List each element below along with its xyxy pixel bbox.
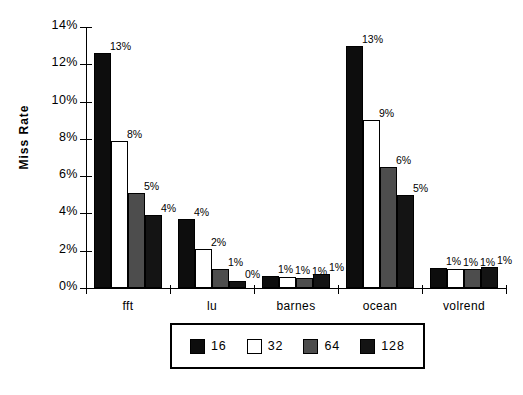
bar — [111, 141, 128, 288]
bar — [145, 215, 162, 288]
bar — [481, 267, 498, 288]
bar-value-label: 1% — [278, 263, 293, 275]
bar-value-label: 4% — [194, 206, 209, 218]
bar — [195, 249, 212, 288]
x-axis-category-label: fft — [86, 299, 170, 313]
bar — [313, 274, 330, 288]
y-axis-tick-label: 2% — [59, 242, 78, 256]
bar-value-label: 1% — [295, 264, 310, 276]
bar-value-label: 1% — [446, 255, 461, 267]
bar — [128, 193, 145, 288]
legend-swatch — [190, 339, 205, 354]
bar-value-label: 1% — [463, 256, 478, 268]
y-axis-tick-label: 6% — [59, 167, 78, 181]
y-axis-tick-label: 12% — [51, 55, 78, 69]
bar — [94, 53, 111, 288]
bar — [296, 278, 313, 288]
bar-group: 1%1%1%1% — [254, 27, 338, 288]
bar — [397, 195, 414, 288]
bar-value-label: 1% — [228, 256, 243, 268]
x-axis-category-label: volrend — [422, 299, 506, 313]
y-axis-tick-label: 8% — [59, 130, 78, 144]
bar-value-label: 6% — [396, 154, 411, 166]
legend-swatch — [247, 339, 262, 354]
bar — [380, 167, 397, 288]
plot-area: 0%2%4%6%8%10%12%14% 13%8%5%4%4%2%1%0%1%1… — [86, 27, 506, 288]
legend-items: 163264128 — [172, 325, 423, 367]
bar-group: 13%8%5%4% — [86, 27, 170, 288]
legend-label: 128 — [381, 339, 405, 353]
bar — [346, 46, 363, 288]
chart-legend: 163264128 — [170, 323, 425, 369]
legend-label: 32 — [268, 339, 284, 353]
bar — [229, 281, 246, 288]
legend-item: 16 — [190, 339, 227, 354]
x-axis-line — [86, 288, 506, 289]
y-axis-title: Miss Rate — [17, 77, 31, 197]
y-axis-tick-label: 0% — [59, 279, 78, 293]
legend-item: 128 — [360, 339, 405, 354]
bar-group: 13%9%6%5% — [338, 27, 422, 288]
legend-label: 64 — [324, 339, 340, 353]
x-axis-tick — [506, 285, 507, 294]
bar — [178, 219, 195, 288]
bar — [279, 277, 296, 288]
bar — [430, 268, 447, 288]
bar-value-label: 9% — [379, 107, 394, 119]
bar-value-label: 1% — [497, 254, 512, 266]
y-axis-tick-label: 10% — [51, 93, 78, 107]
bar-value-label: 2% — [211, 236, 226, 248]
legend-swatch — [360, 339, 375, 354]
x-axis-category-label: ocean — [338, 299, 422, 313]
bar-group: 1%1%1%1% — [422, 27, 506, 288]
legend-item: 32 — [247, 339, 284, 354]
bar-chart-figure: Miss Rate 0%2%4%6%8%10%12%14% 13%8%5%4%4… — [0, 0, 523, 395]
x-axis-category-label: lu — [170, 299, 254, 313]
bar — [464, 269, 481, 288]
bar-value-label: 13% — [362, 33, 383, 45]
legend-label: 16 — [211, 339, 227, 353]
y-axis-tick-label: 4% — [59, 204, 78, 218]
bar-value-label: 13% — [110, 40, 131, 52]
bar — [212, 269, 229, 288]
x-axis-category-label: barnes — [254, 299, 338, 313]
bar-value-label: 8% — [127, 128, 142, 140]
legend-item: 64 — [303, 339, 340, 354]
legend-swatch — [303, 339, 318, 354]
y-axis-tick-label: 14% — [51, 18, 78, 32]
bar — [447, 269, 464, 288]
bar-value-label: 5% — [144, 180, 159, 192]
bar-group: 4%2%1%0% — [170, 27, 254, 288]
bar — [262, 276, 279, 288]
bar — [363, 120, 380, 288]
